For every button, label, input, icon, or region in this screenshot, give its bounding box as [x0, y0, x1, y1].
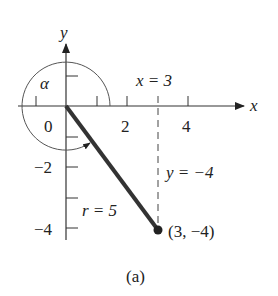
point-label: (3, −4): [168, 222, 214, 241]
trig-diagram: y x α 0 2 4 −2 −4 x = 3 y = −4 r = 5 (3,…: [0, 0, 278, 296]
point-marker: [154, 226, 163, 235]
y-ticks: [66, 76, 78, 228]
x-equals-label: x = 3: [135, 71, 172, 90]
angle-label: α: [40, 74, 50, 93]
y-tick-neg2: −2: [34, 158, 52, 177]
x-tick-4: 4: [182, 117, 191, 136]
x-tick-0: 0: [44, 117, 53, 136]
y-equals-label: y = −4: [164, 163, 214, 182]
r-equals-label: r = 5: [82, 201, 117, 220]
x-ticks: [36, 96, 188, 106]
figure-caption: (a): [126, 267, 145, 286]
x-tick-2: 2: [121, 117, 130, 136]
y-axis-label: y: [58, 23, 68, 42]
x-axis-label: x: [249, 96, 258, 115]
y-tick-neg4: −4: [34, 220, 53, 239]
